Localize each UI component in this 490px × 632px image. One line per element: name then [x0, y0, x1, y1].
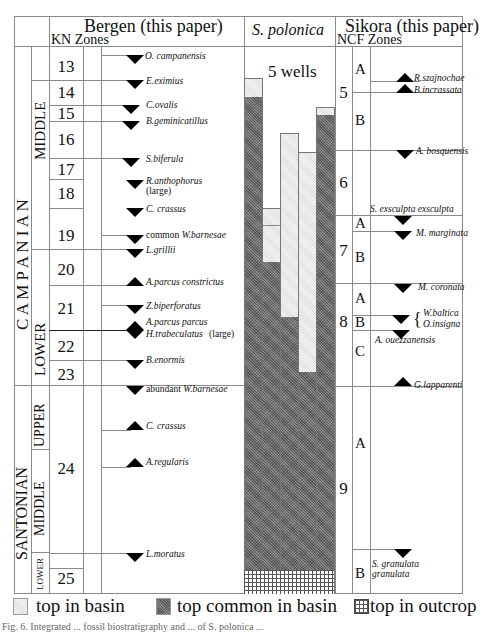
kn-line-22-23	[49, 360, 83, 361]
marker-o-campanensis: O. campanensis	[145, 52, 206, 62]
kn-zone-19: 19	[49, 227, 83, 244]
ncf-sub-7b: B	[355, 250, 365, 265]
marker-b-enormis: B.enormis	[146, 356, 185, 366]
marker-down-icon	[126, 249, 144, 258]
legend-swatch-grid	[354, 599, 369, 614]
marker-r-anthophorus: R.anthophorus (large)	[146, 177, 202, 197]
marker-e-eximius: E.eximius	[146, 77, 183, 87]
marker-g-lapparenti: G.lapparenti	[414, 381, 462, 391]
marker-a-regularis: A.regularis	[146, 458, 189, 468]
ncf-sub-5b: B	[355, 113, 365, 128]
marker-label: W.barnesae	[182, 230, 226, 240]
kn-zone-24: 24	[49, 460, 83, 477]
substage-campanian-middle: MIDDLE	[33, 102, 48, 160]
well-2-outline	[262, 208, 281, 594]
kn-line-19-20	[49, 249, 83, 250]
well-3-outline	[280, 133, 299, 594]
marker-down-icon	[126, 386, 144, 395]
ncf-zone-9: 9	[335, 480, 352, 497]
ncf-zone-6: 6	[335, 174, 352, 191]
leader	[83, 285, 128, 286]
kn-zone-13: 13	[49, 58, 83, 75]
kn-zone-16: 16	[49, 131, 83, 148]
leader	[101, 467, 131, 468]
marker-down-icon	[126, 553, 144, 562]
marker-note: (large)	[209, 329, 234, 339]
ncf-sub-9a: A	[355, 436, 366, 451]
marker-b-geminicatillus: B.geminicatillus	[146, 117, 208, 127]
marker-up-icon	[126, 277, 144, 286]
col-line-kn	[83, 46, 84, 594]
leader	[49, 330, 132, 331]
marker-down-icon	[126, 180, 144, 189]
wells-label: 5 wells	[268, 62, 317, 82]
kn-line-13-14	[49, 80, 83, 81]
stage-santonian: SANTONIAN	[14, 467, 30, 560]
kn-zone-18: 18	[49, 185, 83, 202]
marker-up-icon	[126, 458, 144, 467]
marker-down-icon	[396, 150, 414, 159]
header-center-title: S. polonica	[252, 21, 324, 39]
substage-santonian-middle: MIDDLE	[33, 482, 47, 536]
legend-swatch-dark	[156, 598, 171, 615]
boundary-top-middle	[31, 80, 49, 81]
marker-a-bosquensis: A. bosquensis	[416, 147, 468, 157]
kn-zone-25: 25	[49, 570, 83, 587]
legend-swatch-light	[13, 598, 28, 615]
leader	[101, 430, 131, 431]
marker-up-icon	[394, 377, 412, 386]
marker-m-marginata: M. marginata	[416, 229, 468, 239]
kn-zone-20: 20	[49, 261, 83, 278]
ncf-sub-8c: C	[355, 344, 365, 359]
well-5-outline	[316, 107, 335, 594]
kn-zone-17: 17	[49, 161, 83, 178]
well-1-outline	[244, 78, 263, 594]
ncf-sub-8a: A	[355, 291, 366, 306]
marker-a-ouezzanensis: A. ouezzanensis	[375, 336, 435, 346]
marker-note: (large)	[146, 186, 171, 196]
legend-top-in-basin: top in basin	[36, 596, 125, 615]
marker-w-baltica: W.baltica	[423, 309, 459, 319]
ncf-zone-5: 5	[335, 84, 352, 101]
marker-down-icon	[394, 284, 412, 293]
marker-down-icon	[126, 360, 144, 369]
marker-up-icon	[396, 73, 414, 82]
marker-down-icon	[126, 80, 144, 89]
marker-up-icon	[126, 321, 144, 330]
marker-s-granulata: S. granulata granulata	[372, 560, 422, 580]
col-line-polonica-right	[335, 16, 336, 594]
substage-campanian-lower: LOWER	[33, 323, 48, 376]
stage-campanian: C A M P A N I A N	[14, 199, 31, 330]
ncf-zone-7: 7	[335, 242, 352, 259]
kn-zone-14: 14	[49, 84, 83, 101]
marker-label: H.trabeculatus	[146, 329, 203, 339]
marker-up-icon	[126, 421, 144, 430]
kn-zone-22: 22	[49, 338, 83, 355]
marker-c-crassus-base: C. crassus	[146, 422, 186, 432]
marker-down-icon	[126, 208, 144, 217]
marker-common-w-barnesae: common W.barnesae	[146, 231, 226, 241]
well-4-outline	[298, 152, 317, 594]
boundary-substage-mid-low-santonian	[31, 552, 49, 553]
kn-zone-15: 15	[49, 105, 83, 122]
substage-santonian-upper: UPPER	[33, 403, 47, 447]
marker-down-icon	[126, 235, 144, 244]
marker-down-icon	[122, 121, 140, 130]
leader	[83, 249, 128, 250]
leader	[49, 553, 129, 554]
ncf-zone-8: 8	[335, 313, 352, 330]
marker-l-grillii: L.grillii	[146, 246, 175, 256]
marker-down-icon	[126, 330, 144, 339]
kn-line-17-18	[49, 179, 83, 180]
marker-b-incrassata: B.incrassata	[414, 86, 462, 96]
outcrop-band	[244, 570, 334, 594]
marker-s-exsculpta: S. exsculpta exsculpta	[370, 205, 454, 215]
kn-line-18-19	[49, 208, 83, 209]
marker-label: W.barnesae	[183, 384, 227, 394]
marker-z-biperforatus: Z.biperforatus	[146, 302, 201, 312]
marker-down-icon	[394, 231, 412, 240]
marker-a-parcus-constrictus: A.parcus constrictus	[146, 278, 224, 288]
brace-icon: {	[413, 310, 422, 328]
marker-a-parcus-parcus: A.parcus parcus	[146, 318, 208, 328]
marker-down-icon	[126, 305, 144, 314]
